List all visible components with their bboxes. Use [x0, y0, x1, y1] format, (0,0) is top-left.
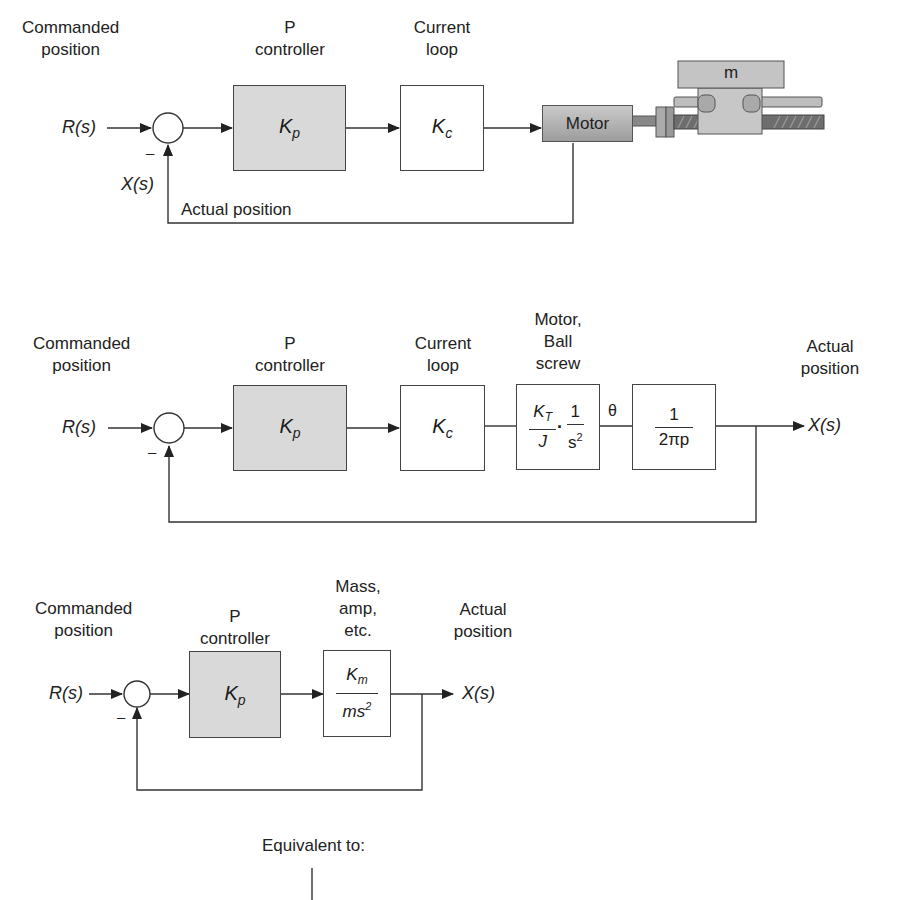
plant-block: Km ms2: [323, 650, 391, 737]
commanded-position-label: Commandedposition: [33, 333, 130, 377]
km-over-ms-squared: Km ms2: [336, 665, 377, 721]
one-over-s-squared: 1 s2: [564, 402, 587, 453]
p-controller-label: Pcontroller: [190, 606, 280, 650]
current-loop-block: Kc: [400, 385, 485, 471]
motor-ballscrew-label: Motor,Ballscrew: [516, 309, 600, 375]
motor-ballscrew-block: KT J · 1 s2: [516, 384, 600, 470]
mass-label: m: [678, 62, 784, 84]
minus-sign: –: [146, 142, 154, 164]
input-signal-r: R(s): [62, 417, 96, 438]
kp-gain: Kp: [279, 115, 300, 141]
motor-block: Motor: [542, 105, 633, 142]
actual-position-label: Actual position: [181, 199, 292, 221]
p-controller-label: Pcontroller: [245, 17, 335, 61]
input-signal-r: R(s): [49, 683, 83, 704]
commanded-position-label: Commandedposition: [35, 598, 132, 642]
equivalent-to-label: Equivalent to:: [262, 835, 362, 857]
kp-gain: Kp: [224, 682, 245, 708]
p-controller-block: Kp: [233, 385, 347, 471]
kc-gain: Kc: [432, 115, 452, 141]
actual-position-label: Actualposition: [443, 599, 523, 643]
minus-sign: –: [148, 441, 156, 463]
input-signal-r: R(s): [62, 117, 96, 138]
p-controller-block: Kp: [189, 651, 281, 738]
theta-label: θ: [608, 400, 617, 422]
ballscrew-pitch-block: 1 2πp: [632, 384, 716, 470]
plant-label: Mass,amp,etc.: [325, 576, 391, 642]
one-over-2pi-p: 1 2πp: [655, 405, 694, 450]
multiply-dot: ·: [557, 417, 563, 438]
output-signal-x: X(s): [462, 683, 495, 704]
kt-over-j: KT J: [529, 402, 556, 452]
feedback-signal-x: X(s): [121, 174, 154, 195]
actual-position-label: Actualposition: [790, 336, 870, 380]
commanded-position-label: Commandedposition: [22, 17, 119, 61]
current-loop-block: Kc: [400, 85, 484, 171]
kc-gain: Kc: [432, 415, 452, 441]
p-controller-block: Kp: [233, 85, 346, 171]
p-controller-label: Pcontroller: [245, 333, 335, 377]
current-loop-label: Currentloop: [403, 333, 483, 377]
current-loop-label: Currentloop: [402, 17, 482, 61]
output-signal-x: X(s): [808, 415, 841, 436]
kp-gain: Kp: [279, 415, 300, 441]
minus-sign: –: [117, 706, 125, 728]
